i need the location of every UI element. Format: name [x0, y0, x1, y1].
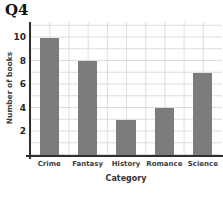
y-tick-label: 4	[2, 104, 26, 113]
bar-romance	[155, 108, 174, 155]
x-axis-title: Category	[106, 174, 147, 183]
y-tick-label: 6	[2, 80, 26, 89]
x-tick-label-romance: Romance	[146, 160, 182, 168]
plot-area	[30, 22, 222, 155]
bar-crime	[40, 38, 59, 155]
x-tick-label-crime: Crime	[38, 160, 61, 168]
y-tick-label: 2	[2, 127, 26, 136]
chart-title: Q4	[5, 1, 29, 19]
bar-science	[193, 73, 212, 155]
x-tick-label-science: Science	[188, 160, 218, 168]
x-axis-line	[26, 155, 223, 157]
y-tick-label: 8	[2, 57, 26, 66]
x-tick-label-history: History	[112, 160, 141, 168]
bar-history	[116, 120, 135, 155]
x-tick-label-fantasy: Fantasy	[72, 160, 103, 168]
bar-chart-panel: Q4 Number of books Category 246810CrimeF…	[0, 0, 223, 200]
y-axis-line	[29, 22, 31, 159]
bar-fantasy	[78, 61, 97, 155]
y-tick-label: 10	[2, 33, 26, 42]
